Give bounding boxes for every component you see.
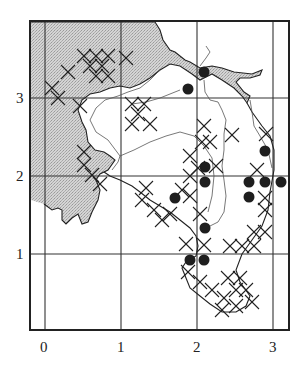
- y-tick-label-2: 2: [16, 169, 24, 184]
- cross-marker-icon: [225, 128, 239, 142]
- cross-marker-icon: [147, 203, 161, 217]
- cross-marker-icon: [209, 159, 223, 173]
- dot-marker-icon: [199, 67, 210, 78]
- cross-marker-icon: [215, 303, 229, 317]
- dot-marker-icon: [200, 223, 211, 234]
- y-tick-label-1: 1: [16, 247, 24, 262]
- cross-marker-icon: [258, 203, 272, 217]
- cross-marker-icon: [125, 97, 139, 111]
- cross-marker-icon: [135, 193, 149, 207]
- cross-marker-icon: [197, 119, 211, 133]
- cross-marker-icon: [259, 127, 273, 141]
- cross-marker-icon: [258, 225, 272, 239]
- cross-marker-icon: [205, 283, 219, 297]
- dot-marker-icon: [276, 177, 287, 188]
- dot-marker-icon: [200, 177, 211, 188]
- cross-marker-icon: [125, 117, 139, 131]
- cross-marker-icon: [179, 237, 193, 251]
- sea-shading: [31, 22, 262, 224]
- cross-marker-icon: [143, 117, 157, 131]
- cross-marker-icon: [203, 135, 217, 149]
- cross-marker-icon: [197, 238, 211, 252]
- x-tick-label-0: 0: [40, 340, 48, 355]
- cross-marker-icon: [193, 275, 207, 289]
- x-tick-label-2: 2: [193, 340, 201, 355]
- dot-marker-icon: [200, 162, 211, 173]
- river: [200, 46, 210, 66]
- y-tick-label-3: 3: [16, 91, 24, 106]
- cross-marker-icon: [250, 163, 264, 177]
- cross-marker-icon: [183, 189, 197, 203]
- cross-marker-icon: [223, 239, 237, 253]
- dot-marker-icon: [260, 146, 271, 157]
- river: [132, 90, 180, 104]
- shaded-sea-region: [31, 22, 262, 224]
- dot-marker-icon: [185, 255, 196, 266]
- dot-marker-icon: [244, 192, 255, 203]
- cross-marker-icon: [163, 207, 177, 221]
- cross-marker-icon: [239, 283, 253, 297]
- cross-marker-icon: [235, 239, 249, 253]
- cross-marker-icon: [183, 149, 197, 163]
- river: [204, 80, 226, 226]
- cross-marker-icon: [193, 207, 207, 221]
- cross-marker-icon: [247, 239, 261, 253]
- dot-marker-icon: [199, 255, 210, 266]
- dot-marker-icon: [260, 177, 271, 188]
- dot-marker-icon: [244, 177, 255, 188]
- cross-marker-icon: [221, 271, 235, 285]
- x-tick-label-1: 1: [117, 340, 125, 355]
- distribution-map: [0, 0, 303, 373]
- dot-marker-icon: [170, 193, 181, 204]
- dot-marker-icon: [183, 84, 194, 95]
- cross-marker-icon: [229, 299, 243, 313]
- cross-marker-icon: [131, 107, 145, 121]
- cross-marker-icon: [137, 97, 151, 111]
- cross-marker-icon: [258, 191, 272, 205]
- cross-marker-icon: [155, 213, 169, 227]
- x-tick-label-3: 3: [269, 340, 277, 355]
- cross-marker-icon: [139, 181, 153, 195]
